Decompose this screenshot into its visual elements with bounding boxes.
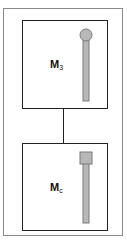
module-box-m3: M3 xyxy=(22,20,108,109)
square-head-rod-icon xyxy=(23,144,109,232)
connector-line xyxy=(63,108,64,144)
module-box-mc: Mc xyxy=(22,143,108,231)
round-head-rod-icon xyxy=(23,21,109,110)
